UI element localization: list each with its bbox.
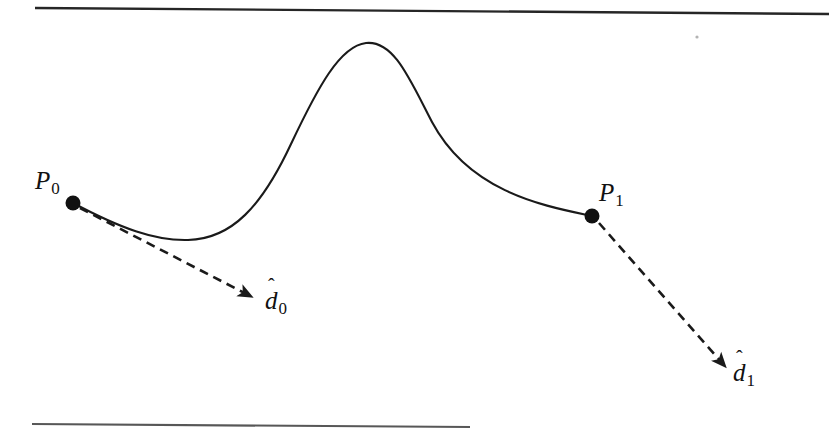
- control-point-p1-label: P1: [599, 180, 624, 209]
- figure-canvas: [0, 0, 830, 433]
- tangent-d0-label: ˆd0: [265, 288, 287, 317]
- d1-subscript: 1: [747, 371, 756, 390]
- control-point-p1-dot: [585, 209, 600, 224]
- hermite-curve: [73, 43, 592, 240]
- d0-subscript: 0: [279, 299, 288, 318]
- tangent-vector-d1: [599, 223, 726, 367]
- p1-base-glyph: P: [599, 179, 614, 206]
- control-point-p0-dot: [66, 196, 81, 211]
- p1-subscript: 1: [615, 191, 624, 210]
- bottom-rule: [32, 424, 470, 427]
- d1-hatted-glyph: ˆd: [733, 360, 746, 385]
- d0-hatted-glyph: ˆd: [265, 288, 278, 313]
- control-point-p0-label: P0: [35, 168, 60, 197]
- tangent-vector-d0: [80, 208, 252, 297]
- hermite-spline-figure: P0 P1 ˆd0 ˆd1: [0, 0, 830, 433]
- p0-subscript: 0: [51, 179, 60, 198]
- tangent-d1-label: ˆd1: [733, 360, 755, 389]
- p0-base-glyph: P: [35, 167, 50, 194]
- d1-hat-accent: ˆ: [736, 348, 743, 368]
- d0-hat-accent: ˆ: [268, 276, 275, 296]
- top-rule: [35, 8, 829, 14]
- scan-speck: [695, 35, 698, 38]
